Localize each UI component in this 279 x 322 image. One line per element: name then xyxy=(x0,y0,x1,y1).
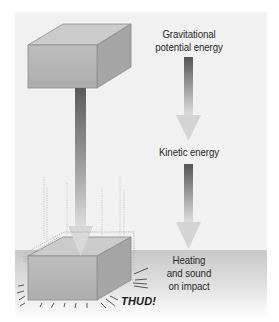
thud-sound-label: THUD! xyxy=(121,295,156,307)
energy-transformation-diagram: Gravitational potential energy Kinetic e… xyxy=(0,0,279,322)
label-line: Kinetic energy xyxy=(149,146,230,159)
label-line: on impact xyxy=(149,280,230,293)
label-kinetic-energy: Kinetic energy xyxy=(149,146,230,159)
label-line: potential energy xyxy=(149,41,230,54)
label-line: Heating xyxy=(149,254,230,267)
label-line: Gravitational xyxy=(149,28,230,41)
label-gravitational-potential-energy: Gravitational potential energy xyxy=(149,28,230,54)
label-heating-and-sound: Heating and sound on impact xyxy=(149,254,230,293)
diagram-canvas xyxy=(0,0,279,322)
label-line: and sound xyxy=(149,267,230,280)
